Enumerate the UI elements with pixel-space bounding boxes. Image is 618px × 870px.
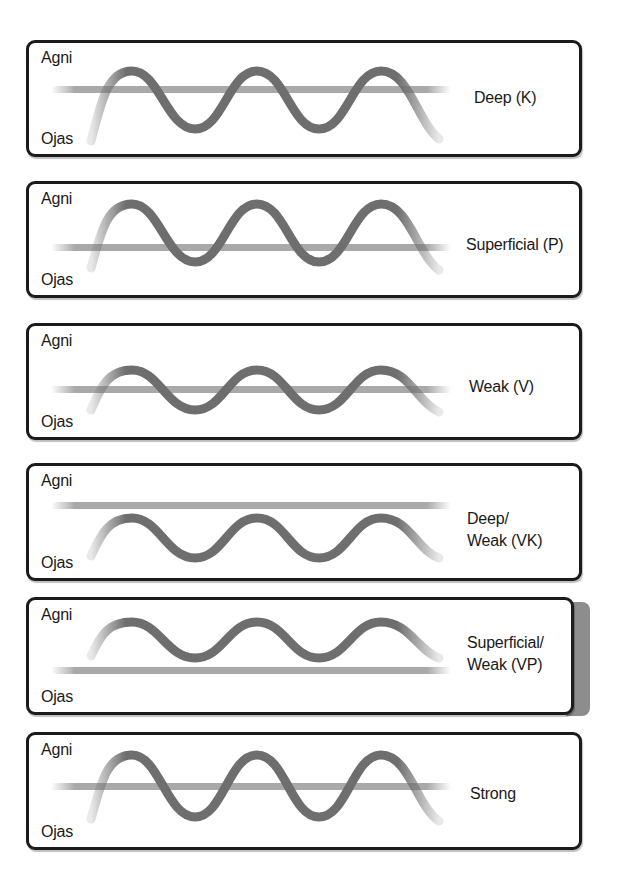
agni-label: Agni (41, 606, 72, 624)
panel-superficial-weak: Agni Ojas Superficial/ Weak (VP) (26, 597, 574, 715)
ojas-label: Ojas (41, 271, 73, 289)
agni-label: Agni (41, 472, 72, 490)
ojas-label: Ojas (41, 413, 73, 431)
panel-deep-weak: Agni Ojas Deep/ Weak (VK) (26, 463, 582, 581)
state-label-superficial-weak: Superficial/ Weak (VP) (467, 632, 544, 676)
agni-label: Agni (41, 741, 72, 759)
agni-label: Agni (41, 190, 72, 208)
panel-strong: Agni Ojas Strong (26, 732, 582, 850)
panel-weak: Agni Ojas Weak (V) (26, 323, 582, 440)
agni-label: Agni (41, 332, 72, 350)
panel-deep: Agni Ojas Deep (K) (26, 40, 582, 157)
state-label-weak: Weak (V) (469, 376, 534, 398)
agni-label: Agni (41, 49, 72, 67)
panel-superficial: Agni Ojas Superficial (P) (26, 181, 582, 298)
state-label-superficial: Superficial (P) (466, 234, 563, 256)
ojas-label: Ojas (41, 823, 73, 841)
ojas-label: Ojas (41, 554, 73, 572)
ojas-label: Ojas (41, 688, 73, 706)
ojas-label: Ojas (41, 130, 73, 148)
state-label-strong: Strong (470, 783, 516, 805)
state-label-deep: Deep (K) (474, 87, 536, 109)
state-label-deep-weak: Deep/ Weak (VK) (467, 508, 542, 552)
